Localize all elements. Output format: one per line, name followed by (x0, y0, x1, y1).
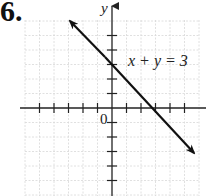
equation-label: x + y = 3 (127, 52, 188, 70)
y-axis-label: y (99, 0, 108, 16)
origin-label: 0 (100, 111, 108, 127)
plotted-line (105, 57, 194, 153)
coordinate-plane: y 0 x + y = 3 (0, 0, 206, 196)
plotted-line (70, 21, 105, 57)
